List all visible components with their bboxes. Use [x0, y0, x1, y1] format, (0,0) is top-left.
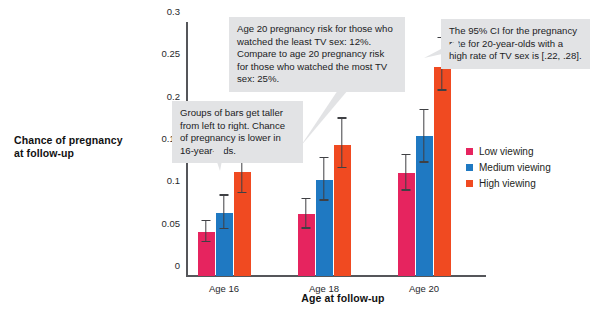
legend-item: High viewing [466, 175, 551, 191]
error-bar-cap-lower [238, 192, 247, 193]
callout-age20-comparison: Age 20 pregnancy risk for those who watc… [229, 17, 405, 92]
legend: Low viewingMedium viewingHigh viewing [466, 143, 551, 191]
y-tick-label: 0.1 [167, 175, 180, 186]
error-bar-cap-lower [202, 241, 211, 242]
error-bar-cap-upper [302, 198, 311, 199]
x-tick-label: Age 20 [409, 283, 439, 294]
error-bar-cap-lower [320, 199, 329, 200]
error-bar-cap-lower [302, 227, 311, 228]
error-bar [405, 155, 406, 191]
callout-confidence-pointer [424, 40, 460, 62]
y-axis-title: Chance of pregnancyat follow-up [14, 134, 144, 160]
error-bar [205, 221, 206, 242]
legend-item: Medium viewing [466, 159, 551, 175]
error-bar-cap-lower [420, 161, 429, 162]
x-tick-label: Age 16 [209, 283, 239, 294]
error-bar-cap-lower [402, 189, 411, 190]
legend-swatch-icon [466, 180, 473, 187]
legend-label: Medium viewing [479, 162, 551, 173]
error-bar [223, 196, 224, 230]
legend-swatch-icon [466, 148, 473, 155]
y-axis-title-line-2: at follow-up [14, 147, 144, 160]
error-bar [323, 158, 324, 200]
callout-age20-pointer [280, 90, 350, 148]
error-bar-cap-upper [220, 194, 229, 195]
error-bar-cap-lower [220, 228, 229, 229]
error-bar-cap-upper [320, 157, 329, 158]
legend-label: Low viewing [479, 146, 533, 157]
chart-figure: Chance of pregnancyat follow-up Age at f… [0, 0, 596, 313]
y-tick-label: 0.3 [167, 6, 180, 17]
bar [434, 67, 451, 276]
y-tick-label: 0.05 [162, 217, 181, 228]
error-bar-cap-upper [402, 154, 411, 155]
legend-label: High viewing [479, 178, 536, 189]
legend-item: Low viewing [466, 143, 551, 159]
error-bar [423, 110, 424, 162]
x-tick-label: Age 18 [309, 283, 339, 294]
error-bar [305, 199, 306, 229]
callout-confidence-interval: The 95% CI for the pregnancy rate for 20… [441, 19, 590, 69]
y-tick-label: 0 [175, 260, 180, 271]
y-tick-label: 0.2 [167, 90, 180, 101]
error-bar-cap-upper [420, 109, 429, 110]
legend-swatch-icon [466, 164, 473, 171]
error-bar-cap-lower [438, 89, 447, 90]
y-axis-title-line-1: Chance of pregnancy [14, 134, 144, 147]
error-bar-cap-lower [338, 167, 347, 168]
y-tick-label: 0.25 [162, 48, 181, 59]
error-bar-cap-upper [202, 220, 211, 221]
callout-groups-trend-pointer [205, 144, 235, 172]
